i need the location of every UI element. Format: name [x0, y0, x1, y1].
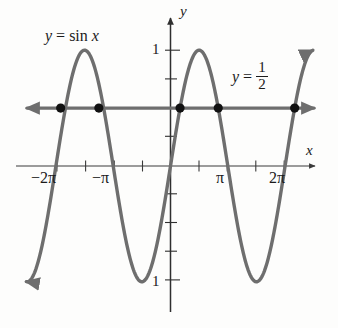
x-tick-label-neg-2pi: −2π	[31, 170, 56, 186]
sine-label-lhs: y	[45, 27, 52, 44]
half-label-fraction: 12	[256, 60, 268, 93]
axes-group	[16, 18, 315, 312]
figure-container: y=sinx y=12 y x −2π −π π 2π 1 1	[0, 0, 338, 328]
y-tick-label-one: 1	[152, 42, 160, 57]
half-label-lhs: y	[232, 68, 239, 85]
intersection-point	[56, 104, 65, 113]
sine-label-equals: =	[56, 27, 65, 44]
half-label-equals: =	[243, 68, 252, 85]
sine-graph-plot	[0, 0, 338, 328]
sine-label-arg: x	[92, 27, 99, 44]
sine-label-fn: sin	[69, 27, 88, 44]
intersection-point	[214, 104, 223, 113]
x-tick-label-neg-pi: −π	[92, 170, 109, 186]
x-tick-label-pi: π	[216, 170, 224, 186]
x-tick-label-2pi: 2π	[269, 170, 285, 186]
fraction-numerator: 1	[256, 60, 268, 76]
y-tick-label-neg-one: 1	[152, 274, 160, 289]
intersection-point	[290, 104, 299, 113]
fraction-denominator: 2	[256, 76, 268, 93]
sine-equation-label: y=sinx	[45, 28, 99, 44]
half-line-equation-label: y=12	[232, 62, 268, 95]
x-axis-label: x	[306, 143, 313, 158]
intersection-point	[94, 104, 103, 113]
y-axis-label: y	[180, 4, 187, 19]
y-axis-ticks	[165, 50, 180, 280]
intersection-point	[175, 104, 184, 113]
